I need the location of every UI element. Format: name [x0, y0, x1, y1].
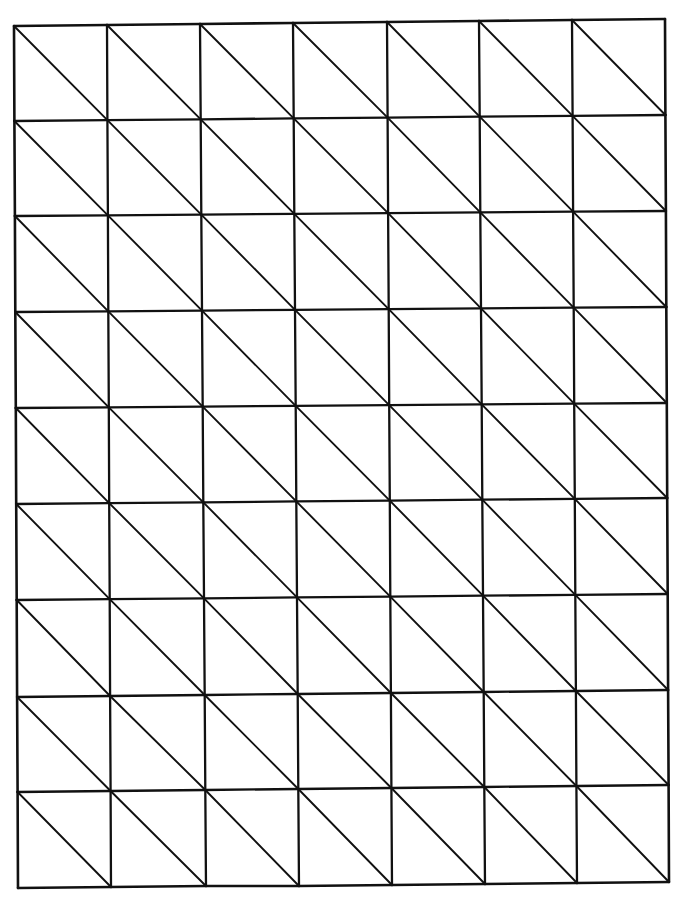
vertical-line — [14, 121, 15, 216]
horizontal-line — [201, 214, 294, 215]
triangle-grid — [0, 0, 687, 905]
cell-diagonal — [201, 215, 295, 310]
horizontal-line — [298, 788, 391, 789]
cell-diagonal — [15, 312, 109, 407]
cell-diagonal — [296, 406, 390, 501]
cell-diagonal — [205, 695, 299, 789]
vertical-line — [668, 690, 669, 785]
cell-diagonal — [390, 501, 483, 596]
vertical-line — [17, 697, 18, 792]
horizontal-line — [108, 311, 202, 312]
horizontal-line — [205, 694, 298, 695]
cell-diagonal — [293, 23, 388, 118]
horizontal-line — [481, 308, 574, 309]
vertical-line — [16, 504, 17, 600]
cell-diagonal — [16, 408, 109, 503]
cell-diagonal — [388, 118, 481, 213]
horizontal-line — [15, 311, 108, 312]
horizontal-line — [205, 789, 298, 790]
horizontal-line — [18, 791, 111, 792]
horizontal-line — [388, 117, 480, 118]
cell-diagonal — [389, 405, 482, 500]
vertical-line — [482, 500, 483, 596]
cell-diagonal — [107, 120, 201, 215]
horizontal-line — [107, 24, 200, 25]
vertical-line — [294, 214, 295, 310]
cell-diagonal — [110, 696, 205, 790]
horizontal-line — [482, 499, 575, 500]
horizontal-line — [296, 501, 390, 502]
cell-diagonal — [481, 308, 574, 403]
horizontal-line — [575, 498, 667, 499]
horizontal-line — [574, 403, 667, 404]
vertical-line — [390, 501, 391, 597]
cell-diagonal — [203, 502, 297, 597]
vertical-line — [391, 788, 392, 885]
vertical-line — [297, 597, 298, 694]
horizontal-line — [299, 885, 392, 886]
vertical-line — [389, 309, 390, 405]
horizontal-line — [201, 118, 294, 119]
horizontal-line — [479, 20, 572, 21]
vertical-line — [203, 407, 204, 503]
cell-diagonal — [205, 790, 299, 886]
horizontal-line — [110, 695, 205, 696]
horizontal-line — [390, 596, 483, 597]
horizontal-line — [107, 119, 200, 120]
cell-diagonal — [295, 310, 389, 405]
horizontal-line — [391, 787, 484, 788]
vertical-line — [574, 308, 575, 404]
horizontal-line — [574, 307, 667, 308]
vertical-line — [481, 308, 482, 404]
vertical-line — [572, 20, 573, 116]
vertical-line — [480, 117, 481, 213]
vertical-line — [293, 23, 294, 118]
vertical-line — [109, 503, 110, 599]
vertical-line — [575, 595, 576, 691]
vertical-line — [666, 307, 667, 403]
horizontal-line — [572, 19, 665, 20]
horizontal-line — [109, 502, 203, 503]
cell-diagonal — [18, 792, 111, 887]
cell-diagonal — [483, 596, 576, 691]
cell-diagonal — [482, 404, 575, 499]
vertical-line — [298, 789, 299, 886]
horizontal-line — [389, 404, 482, 405]
cell-diagonal — [482, 500, 575, 595]
cell-diagonal — [201, 119, 295, 214]
vertical-line — [201, 119, 202, 214]
cell-diagonal — [484, 787, 577, 883]
cell-diagonal — [202, 311, 296, 406]
horizontal-grid-lines — [14, 19, 669, 888]
cell-diagonal — [200, 24, 294, 118]
vertical-line — [389, 405, 390, 501]
cell-diagonal — [296, 501, 390, 596]
horizontal-line — [485, 883, 577, 884]
horizontal-line — [111, 790, 206, 791]
cell-diagonal — [388, 213, 481, 308]
horizontal-line — [392, 884, 485, 885]
cell-diagonal — [298, 694, 392, 788]
cell-diagonal — [484, 692, 577, 786]
cell-diagonal — [109, 503, 204, 598]
horizontal-line — [200, 23, 293, 24]
horizontal-line — [296, 405, 390, 406]
cell-diagonal — [111, 791, 206, 886]
vertical-line — [483, 596, 484, 692]
horizontal-line — [391, 692, 484, 693]
cell-diagonal — [480, 117, 573, 212]
horizontal-line — [203, 406, 296, 407]
cell-diagonal — [479, 21, 573, 116]
horizontal-line — [109, 407, 203, 408]
vertical-line — [574, 404, 575, 499]
horizontal-line — [387, 21, 479, 22]
horizontal-line — [203, 501, 296, 502]
horizontal-line — [575, 594, 667, 595]
horizontal-line — [111, 886, 206, 887]
cell-diagonal — [576, 786, 669, 882]
horizontal-line — [480, 116, 573, 117]
vertical-line — [202, 311, 203, 407]
cell-diagonal — [573, 212, 666, 307]
vertical-line — [387, 22, 388, 118]
cell-diagonal — [572, 20, 665, 115]
